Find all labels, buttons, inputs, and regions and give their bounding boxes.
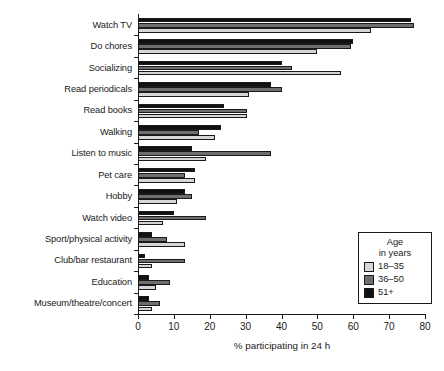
bar-36-50 [138,23,414,28]
bar-18-35 [138,28,371,33]
bar-51-plus [138,125,221,130]
bar-51-plus [138,254,145,259]
bar-chart-figure: Watch TVDo choresSocializingRead periodi… [0,0,444,371]
y-tick [134,100,139,101]
bar-51-plus [138,39,353,44]
bar-36-50 [138,280,170,285]
bar-18-35 [138,114,247,119]
category-label: Hobby [106,191,132,201]
x-tick [210,314,211,319]
bar-51-plus [138,232,152,237]
x-tick [282,314,283,319]
x-tick [138,314,139,319]
y-tick [134,228,139,229]
bar-group-9: Hobby [138,185,425,206]
x-tick [389,314,390,319]
category-label: Walking [100,127,132,137]
bar-18-35 [138,307,152,312]
x-tick [174,314,175,319]
legend-title-line2: in years [364,248,426,259]
x-tick-label: 0 [135,321,141,332]
x-tick-label: 80 [419,321,430,332]
bar-36-50 [138,259,185,264]
y-tick [134,57,139,58]
bar-group-bars [138,185,425,206]
bar-51-plus [138,61,282,66]
bar-51-plus [138,82,271,87]
bar-group-bars [138,78,425,99]
legend-label-51-plus: 51+ [378,287,394,298]
bar-36-50 [138,130,199,135]
bar-group-3: Socializing [138,57,425,78]
bar-51-plus [138,275,149,280]
bar-51-plus [138,296,149,301]
x-tick [353,314,354,319]
bar-group-5: Read books [138,100,425,121]
bar-group-bars [138,14,425,35]
bar-group-8: Pet care [138,164,425,185]
bar-group-1: Watch TV [138,14,425,35]
legend-item-36-50: 36–50 [364,274,426,285]
legend-item-51-plus: 51+ [364,287,426,298]
bar-group-bars [138,121,425,142]
bar-36-50 [138,44,351,49]
category-label: Pet care [98,170,132,180]
category-label: Do chores [91,41,132,51]
bar-group-bars [138,143,425,164]
legend-item-18-35: 18–35 [364,261,426,272]
category-label: Club/bar restaurant [54,255,132,265]
x-tick-label: 10 [168,321,179,332]
y-tick [134,271,139,272]
bar-36-50 [138,301,160,306]
legend-swatch-icon-51-plus [364,288,374,298]
legend-label-18-35: 18–35 [378,261,404,272]
bar-18-35 [138,157,206,162]
bar-51-plus [138,146,192,151]
x-tick [317,314,318,319]
bar-group-bars [138,100,425,121]
bar-18-35 [138,135,215,140]
bar-51-plus [138,189,185,194]
bar-group-bars [138,57,425,78]
legend-swatch-icon-36-50 [364,275,374,285]
x-tick-label: 60 [348,321,359,332]
y-tick [134,250,139,251]
x-tick-label: 20 [204,321,215,332]
category-label: Watch video [82,213,132,223]
y-tick [134,185,139,186]
category-label: Sport/physical activity [45,234,132,244]
y-tick [134,207,139,208]
legend-label-36-50: 36–50 [378,274,404,285]
category-label: Museum/theatre/concert [34,298,132,308]
bar-group-4: Read periodicals [138,78,425,99]
bar-51-plus [138,211,174,216]
x-axis-title: % participating in 24 h [138,340,426,351]
bar-group-7: Listen to music [138,143,425,164]
bar-group-bars [138,164,425,185]
y-tick [134,35,139,36]
bar-51-plus [138,104,224,109]
bar-18-35 [138,178,195,183]
bar-51-plus [138,168,195,173]
x-tick-label: 40 [276,321,287,332]
y-tick [134,121,139,122]
bar-18-35 [138,49,317,54]
legend-title-line1: Age [364,237,426,248]
bar-51-plus [138,18,411,23]
y-tick [134,143,139,144]
bar-36-50 [138,151,271,156]
bar-36-50 [138,237,167,242]
bar-36-50 [138,216,206,221]
bar-18-35 [138,285,156,290]
category-label: Read books [83,105,132,115]
bar-group-10: Watch video [138,207,425,228]
bar-36-50 [138,173,185,178]
legend-swatch-icon-18-35 [364,262,374,272]
bar-group-2: Do chores [138,35,425,56]
y-tick [134,78,139,79]
bar-group-6: Walking [138,121,425,142]
legend: Age in years 18–35 36–50 51+ [358,232,432,304]
category-label: Listen to music [71,148,132,158]
bar-36-50 [138,66,292,71]
x-tick-label: 50 [312,321,323,332]
